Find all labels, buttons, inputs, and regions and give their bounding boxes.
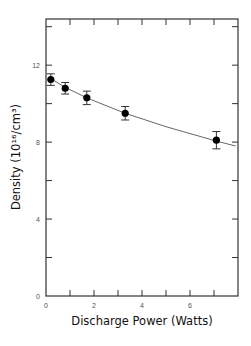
data-points [47,74,221,149]
y-tick-label: 0 [36,293,40,300]
data-point [47,74,55,86]
plot-frame [46,19,238,296]
marker-filled-circle [47,76,54,83]
y-axis-ticks: 04812 [32,27,238,300]
y-tick-label: 4 [36,216,40,223]
y-tick-label: 12 [32,62,40,69]
marker-filled-circle [122,110,129,117]
data-point [83,91,91,104]
x-tick-label: 0 [44,302,48,309]
marker-filled-circle [213,137,220,144]
marker-filled-circle [83,94,90,101]
x-axis-title: Discharge Power (Watts) [71,314,212,328]
y-tick-label: 8 [36,139,40,146]
data-point [212,132,220,149]
data-point [121,107,129,120]
y-axis-title: Density (10¹⁶/cm³) [9,104,23,210]
fit-curve [51,79,236,146]
marker-filled-circle [62,85,69,92]
data-point [61,82,69,94]
density-vs-power-chart: 0246 04812 Discharge Power (Watts) Densi… [0,0,251,346]
fit-line [51,79,236,146]
x-axis-ticks: 0246 [44,19,214,309]
axes-box [46,19,238,296]
x-tick-label: 2 [92,302,96,309]
x-tick-label: 6 [188,302,192,309]
x-tick-label: 4 [140,302,144,309]
